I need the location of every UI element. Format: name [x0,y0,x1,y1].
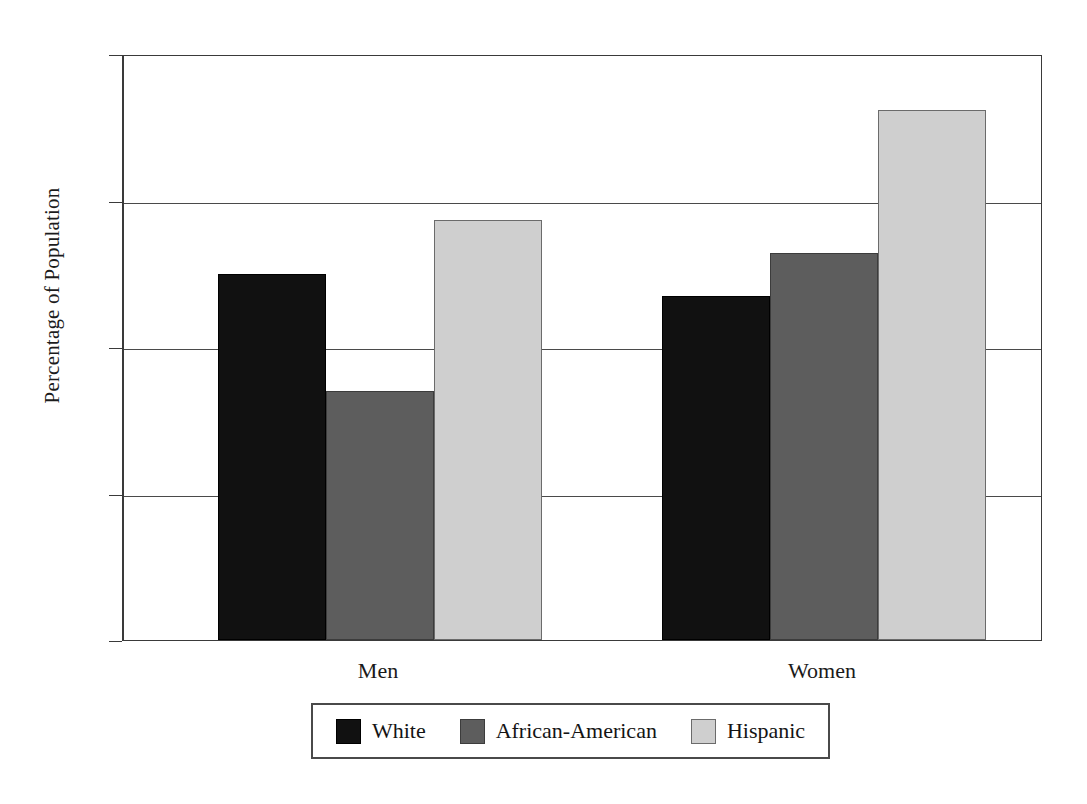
legend-item-african-american: African-American [443,718,674,744]
x-axis-group-label-women: Women [712,658,932,684]
legend-swatch-icon [460,719,485,744]
y-axis-tick-mark [109,495,122,496]
legend: WhiteAfrican-AmericanHispanic [311,703,830,759]
plot-area [122,55,1042,641]
legend-swatch-icon [691,719,716,744]
legend-item-hispanic: Hispanic [674,718,822,744]
y-axis-tick-mark [109,641,122,642]
legend-label: Hispanic [727,718,805,744]
bar-women-white [662,296,770,640]
bar-men-african-american [326,391,434,640]
y-axis-tick-mark [109,202,122,203]
bar-chart: Percentage of Population 403020100 MenWo… [0,0,1087,804]
bar-men-white [218,274,326,640]
legend-label: African-American [496,718,657,744]
bar-women-hispanic [878,110,986,640]
bar-women-african-american [770,253,878,640]
bar-men-hispanic [434,220,542,640]
y-axis-tick-mark [109,348,122,349]
y-axis-title: Percentage of Population [40,166,65,426]
legend-item-white: White [319,718,443,744]
legend-swatch-icon [336,719,361,744]
y-axis-tick-mark [109,55,122,56]
legend-label: White [372,718,426,744]
x-axis-group-label-men: Men [268,658,488,684]
